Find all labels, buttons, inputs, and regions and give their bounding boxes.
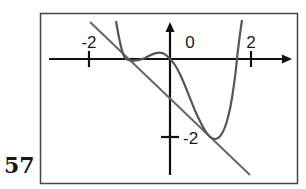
graph: -2 0 2 -2 bbox=[0, 0, 306, 189]
x-tick-label-0: 0 bbox=[185, 33, 194, 52]
x-tick-label-2: 2 bbox=[246, 33, 255, 52]
y-tick-label-neg2: -2 bbox=[183, 129, 198, 148]
x-tick-label-neg2: -2 bbox=[81, 33, 96, 52]
